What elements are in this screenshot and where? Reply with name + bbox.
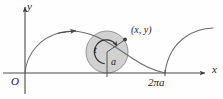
cycloid-arch-two — [165, 28, 213, 73]
period-tick-label: 2πa — [148, 77, 165, 88]
x-axis-label: x — [212, 64, 217, 75]
tracing-point — [123, 38, 127, 42]
tracing-point-label: (x, y) — [131, 25, 152, 35]
origin-label: O — [11, 76, 19, 87]
radius-label-a: a — [111, 57, 116, 67]
angle-label-t: t — [94, 45, 97, 55]
y-axis-label: y — [27, 1, 32, 12]
cycloid-svg — [0, 0, 223, 99]
cycloid-figure: y x O (x, y) t a 2πa — [0, 0, 223, 99]
